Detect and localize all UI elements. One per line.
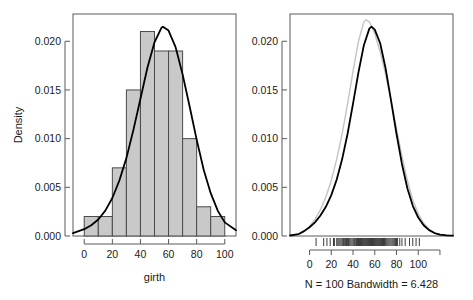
histogram-bar (183, 139, 197, 236)
histogram-bar (98, 217, 112, 236)
y-tick-label: 0.010 (252, 132, 278, 144)
y-axis-title: Density (12, 106, 24, 143)
density-panel: 0.0000.0050.0100.0150.020020406080100N =… (245, 0, 473, 300)
histogram-bar (140, 32, 154, 236)
density-curve (290, 27, 453, 236)
density-figure: 0.0000.0050.0100.0150.020020406080100gir… (0, 0, 473, 300)
plot-frame (290, 14, 453, 236)
histogram-panel: 0.0000.0050.0100.0150.020020406080100gir… (0, 0, 245, 300)
y-axis: 0.0000.0050.0100.0150.020 (35, 35, 70, 242)
x-tick-label: 0 (307, 258, 313, 270)
histogram-plot: 0.0000.0050.0100.0150.020020406080100gir… (0, 0, 245, 300)
y-tick-label: 0.020 (252, 35, 278, 47)
x-tick-label: 40 (347, 258, 359, 270)
density-plot: 0.0000.0050.0100.0150.020020406080100N =… (245, 0, 473, 300)
y-tick-label: 0.000 (35, 230, 61, 242)
histogram-bar (155, 51, 169, 236)
y-tick-label: 0.000 (252, 230, 278, 242)
y-tick-label: 0.015 (35, 84, 61, 96)
x-tick-label: 20 (325, 258, 337, 270)
x-tick-label: 60 (369, 258, 381, 270)
x-axis-title: girth (144, 271, 165, 283)
y-tick-label: 0.015 (252, 84, 278, 96)
x-tick-label: 100 (409, 258, 427, 270)
rug-marks (316, 238, 419, 246)
x-axis: 020406080100 (307, 250, 440, 270)
density-curve (290, 20, 453, 236)
x-tick-label: 100 (216, 248, 234, 260)
y-tick-label: 0.020 (35, 35, 61, 47)
x-tick-label: 80 (191, 248, 203, 260)
plot-caption: N = 100 Bandwidth = 6.428 (305, 278, 438, 290)
histogram-bars (84, 32, 225, 236)
y-tick-label: 0.010 (35, 132, 61, 144)
x-axis: 020406080100 (81, 239, 233, 260)
histogram-bar (197, 207, 211, 236)
histogram-bar (169, 51, 183, 236)
y-axis: 0.0000.0050.0100.0150.020 (252, 35, 287, 242)
x-tick-label: 40 (135, 248, 147, 260)
x-tick-label: 60 (163, 248, 175, 260)
x-tick-label: 0 (81, 248, 87, 260)
y-tick-label: 0.005 (252, 181, 278, 193)
x-tick-label: 80 (391, 258, 403, 270)
x-tick-label: 20 (107, 248, 119, 260)
y-tick-label: 0.005 (35, 181, 61, 193)
